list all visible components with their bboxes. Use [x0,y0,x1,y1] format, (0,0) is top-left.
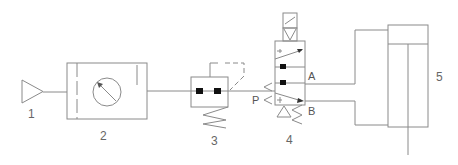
pneumatic-diagram: 1 2 3 [0,0,458,165]
cylinder-symbol [388,25,428,155]
spring-icon [203,107,228,128]
pressure-valve-symbol [191,63,275,128]
solenoid-valve-symbol [264,13,305,124]
component-label-3: 3 [211,134,218,148]
component-label-4: 4 [286,133,293,147]
air-source-symbol [22,80,67,103]
valve-marker-icon [214,88,221,94]
line-a [305,30,388,84]
component-label-1: 1 [28,107,35,121]
valve-marker-icon [196,88,203,94]
port-label-p: P [252,94,259,106]
exhaust-icon [264,83,272,91]
port-label-a: A [308,70,316,82]
filter-regulator-symbol [67,63,191,119]
valve-marker-icon [280,80,286,85]
exhaust-icon [264,96,272,104]
spring-icon [292,105,302,124]
solenoid-icon [283,13,297,41]
component-label-2: 2 [100,129,107,143]
port-label-b: B [308,105,315,117]
component-label-5: 5 [436,70,443,84]
line-b [305,101,388,125]
pilot-triangle-icon [277,106,291,117]
valve-marker-icon [280,64,286,69]
gauge-icon [93,78,121,106]
